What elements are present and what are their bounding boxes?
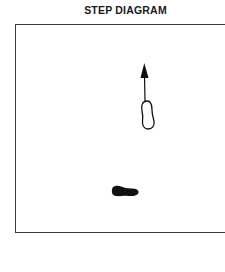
step-diagram-canvas	[0, 0, 225, 272]
filled-footprint-icon	[112, 186, 139, 196]
direction-arrow-icon	[141, 63, 149, 101]
outline-footprint-icon	[142, 101, 155, 129]
